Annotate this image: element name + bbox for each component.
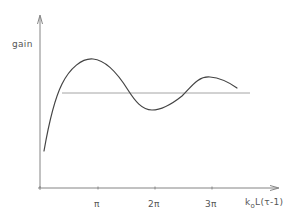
y-axis-label: gain [12,39,33,49]
x-axis-label-rest: L(τ-1) [255,197,283,207]
gain-curve [44,59,237,151]
tick-label-2pi: 2π [148,199,160,209]
chart-canvas [0,0,298,217]
tick-label-pi: π [94,199,100,209]
chart-figure: gain π 2π 3π koL(τ-1) [0,0,298,217]
x-axis-label: koL(τ-1) [245,197,283,210]
tick-label-3pi: 3π [205,199,217,209]
